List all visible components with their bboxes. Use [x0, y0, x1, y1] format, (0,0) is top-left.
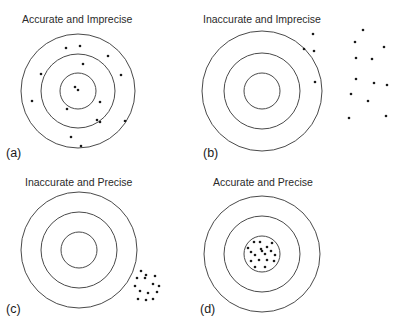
middle-ring — [224, 216, 300, 292]
shot-dot — [96, 119, 99, 122]
shot-dot — [154, 275, 157, 278]
shot-dot — [134, 285, 137, 288]
bullseye-ring — [61, 232, 97, 268]
middle-ring — [41, 212, 117, 288]
panel-d: Accurate and Precise (d) — [200, 176, 320, 316]
shot-dot — [264, 266, 267, 269]
shot-dot — [144, 277, 147, 280]
shot-dot — [312, 33, 315, 36]
panel-c: Inaccurate and Precise (c) — [6, 176, 160, 316]
panel-title: Inaccurate and Imprecise — [203, 13, 321, 25]
shot-dot — [354, 41, 357, 44]
shot-group — [247, 241, 277, 269]
shot-dot — [156, 291, 159, 294]
shot-dot — [362, 29, 365, 32]
shot-dot — [74, 86, 77, 89]
shot-dot — [386, 84, 389, 87]
shot-dot — [120, 74, 123, 77]
panel-label: (b) — [203, 146, 218, 160]
shot-dot — [107, 55, 110, 58]
shot-dot — [373, 82, 376, 85]
target — [21, 192, 137, 308]
shot-dot — [250, 260, 253, 263]
shot-dot — [80, 145, 83, 148]
shot-dot — [314, 81, 317, 84]
shot-dot — [385, 115, 388, 118]
shot-dot — [266, 259, 269, 262]
shot-group — [31, 45, 127, 148]
outer-ring — [21, 192, 137, 308]
shot-dot — [140, 270, 143, 273]
shot-dot — [70, 136, 73, 139]
shot-dot — [271, 242, 274, 245]
panel-label: (a) — [6, 146, 21, 160]
shot-dot — [66, 108, 69, 111]
shot-dot — [264, 253, 267, 256]
shot-dot — [136, 277, 139, 280]
shot-dot — [152, 298, 155, 301]
shot-dot — [261, 250, 264, 253]
shot-dot — [99, 121, 102, 124]
middle-ring — [224, 53, 300, 129]
shot-dot — [371, 58, 374, 61]
shot-dot — [254, 254, 257, 257]
panel-a: Accurate and Imprecise (a) — [6, 13, 135, 160]
panel-b: Inaccurate and Imprecise (b) — [202, 13, 388, 160]
shot-dot — [99, 101, 102, 104]
panel-title: Accurate and Precise — [213, 176, 313, 188]
shot-dot — [303, 48, 306, 51]
shot-dot — [254, 266, 257, 269]
shot-dot — [367, 100, 370, 103]
target — [204, 196, 320, 312]
shot-group — [303, 29, 389, 120]
outer-ring — [204, 196, 320, 312]
shot-dot — [65, 47, 68, 50]
panel-label: (c) — [6, 302, 21, 316]
shot-dot — [145, 299, 148, 302]
shot-dot — [158, 285, 161, 288]
shot-dot — [383, 46, 386, 49]
shot-dot — [270, 250, 273, 253]
shot-dot — [250, 251, 253, 254]
shot-dot — [147, 292, 150, 295]
shot-dot — [152, 283, 155, 286]
bullseye-ring — [244, 73, 280, 109]
shot-dot — [355, 78, 358, 81]
target-diagram-figure: Accurate and Imprecise (a) Inaccurate an… — [0, 0, 408, 329]
shot-dot — [145, 274, 148, 277]
panel-label: (d) — [200, 302, 215, 316]
shot-dot — [348, 117, 351, 120]
shot-group — [134, 270, 161, 302]
shot-dot — [259, 241, 262, 244]
shot-dot — [139, 290, 142, 293]
panel-title: Inaccurate and Precise — [25, 176, 133, 188]
shot-dot — [253, 241, 256, 244]
shot-dot — [313, 50, 316, 53]
shot-dot — [355, 57, 358, 60]
shot-dot — [137, 298, 140, 301]
shot-dot — [350, 93, 353, 96]
shot-dot — [273, 260, 276, 263]
shot-dot — [258, 259, 261, 262]
shot-dot — [77, 89, 80, 92]
shot-dot — [266, 246, 269, 249]
shot-dot — [82, 63, 85, 66]
shot-dot — [31, 100, 34, 103]
shot-dot — [124, 120, 127, 123]
shot-dot — [247, 247, 250, 250]
panel-title: Accurate and Imprecise — [22, 13, 132, 25]
shot-dot — [40, 73, 43, 76]
figure-canvas: Accurate and Imprecise (a) Inaccurate an… — [0, 0, 408, 329]
shot-dot — [274, 254, 277, 257]
shot-dot — [79, 45, 82, 48]
